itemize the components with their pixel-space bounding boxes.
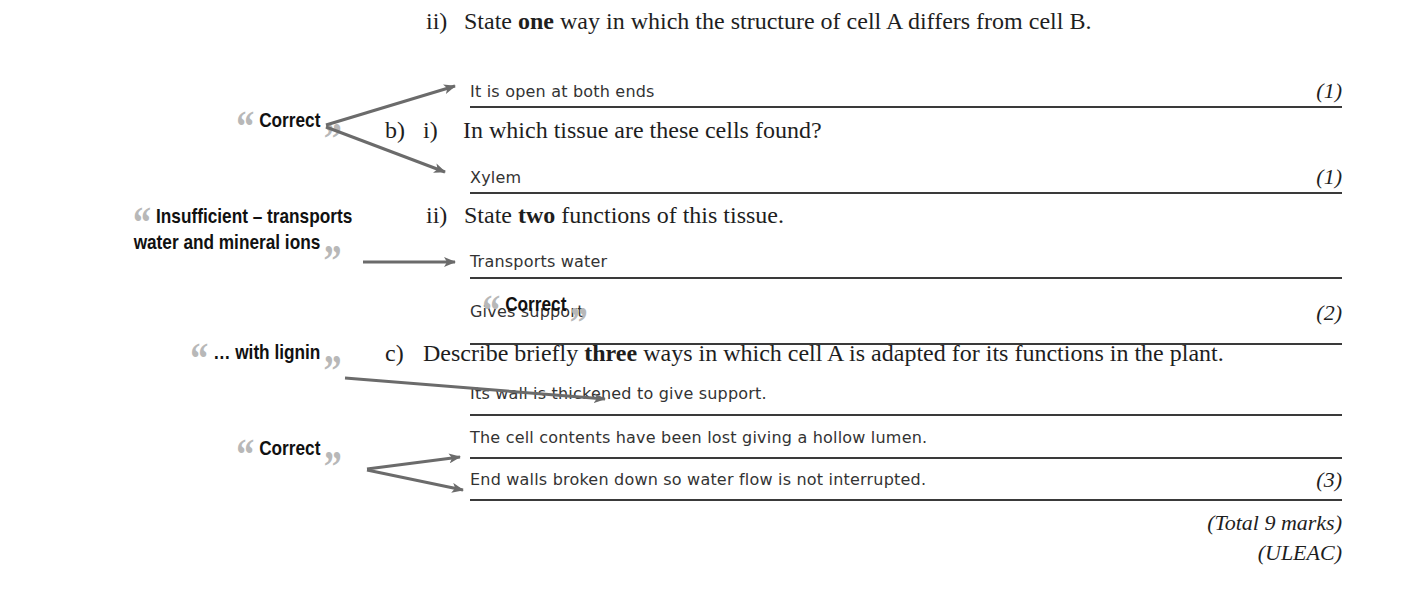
answer-line [470,192,1342,194]
open-quote-icon: “ [191,334,209,383]
answer-line [470,499,1342,501]
open-quote-icon: “ [236,430,254,479]
open-quote-icon: “ [236,102,254,151]
arrow-icon [367,457,460,469]
answer-b-i: Xylem [470,168,521,187]
question-b-ii: ii)State two functions of this tissue. [426,202,784,229]
marks-c: (3) [1260,467,1342,493]
answer-line [470,277,1342,279]
close-quote-icon: ” [324,346,342,395]
answer-c-2: The cell contents have been lost giving … [470,428,927,447]
close-quote-icon: ” [324,114,342,163]
arrow-icon [367,470,463,490]
answer-a-ii: It is open at both ends [470,82,655,101]
comment-correct-3: “Correct” [236,436,342,460]
answer-c-3: End walls broken down so water flow is n… [470,470,926,489]
marks-b-i: (1) [1260,164,1342,190]
answer-b-ii-1: Transports water [470,252,607,271]
open-quote-icon: “ [482,286,500,335]
comment-insufficient-line2: water and mineral ions” [134,230,342,254]
marks-b-ii: (2) [1260,300,1342,326]
comment-correct-2: “Correct” [482,292,588,316]
annotation-arrows [0,0,1410,595]
question-a-ii: ii)State one way in which the structure … [426,8,1091,35]
answer-line [470,457,1342,459]
comment-insufficient-line1: “Insufficient – transports [133,204,352,228]
comment-correct-1: “Correct” [236,108,342,132]
question-b-i: b)i)In which tissue are these cells foun… [385,117,822,144]
close-quote-icon: ” [570,298,588,347]
exam-board: (ULEAC) [1100,540,1342,566]
close-quote-icon: ” [324,442,342,491]
total-marks: (Total 9 marks) [1100,510,1342,536]
close-quote-icon: ” [324,236,342,285]
answer-line [470,106,1342,108]
answer-line [470,414,1342,416]
question-number: ii) [426,8,464,35]
comment-with-lignin: “… with lignin” [191,340,342,364]
marks-a-ii: (1) [1260,78,1342,104]
answer-c-1: Its wall is thickened to give support. [470,384,767,403]
question-c: c)Describe briefly three ways in which c… [385,340,1224,367]
